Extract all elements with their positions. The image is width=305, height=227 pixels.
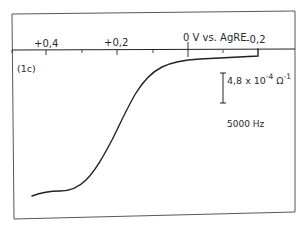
frequency-label: 5000 Hz	[227, 119, 265, 129]
scale-unit-exponent: -1	[284, 72, 292, 81]
chart: +0,4 +0,2 0 V vs. AgRE -0,2 (1c) 4,8 x 1…	[0, 0, 305, 227]
panel-label: (1c)	[17, 63, 36, 74]
data-curve	[32, 49, 258, 196]
scale-exponent: -4	[266, 72, 274, 81]
x-axis-line	[12, 49, 295, 50]
tick-label: +0,4	[34, 38, 58, 49]
scale-unit: Ω	[276, 75, 283, 86]
scale-bar-label: 4,8 x 10-4Ω-1	[227, 72, 291, 86]
scale-value: 4,8 x 10	[227, 75, 266, 86]
tick-label-zero: 0 V vs. AgRE	[183, 32, 247, 43]
tick-label: -0,2	[246, 34, 266, 45]
tick-label: +0,2	[104, 37, 128, 48]
